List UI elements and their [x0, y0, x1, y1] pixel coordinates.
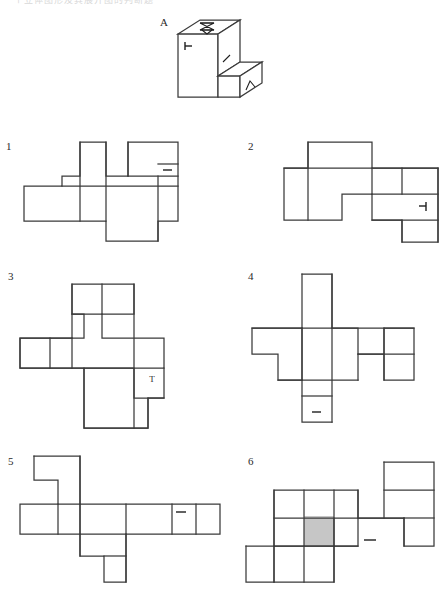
svg-text:T: T — [149, 374, 155, 384]
option-1-label: 1 — [6, 140, 12, 152]
net-option-4 — [244, 270, 434, 430]
shaded-cell-option-6 — [304, 516, 334, 546]
option-2-label: 2 — [248, 140, 254, 152]
figure-label-a: A — [160, 16, 168, 28]
option-3-label: 3 — [8, 270, 14, 282]
clipped-header: 一个立体图形及其展开图的判断题 — [0, 0, 440, 9]
option-5-label: 5 — [8, 455, 14, 467]
net-option-5 — [14, 452, 224, 587]
puzzle-page: 一个立体图形及其展开图的判断题 A — [0, 0, 440, 591]
mark-right-tack-option-2 — [419, 202, 426, 211]
solid-figure-a — [170, 14, 270, 114]
net-option-1 — [18, 136, 218, 246]
clipped-header-text: 一个立体图形及其展开图的判断题 — [4, 0, 154, 6]
net-option-2 — [280, 138, 440, 248]
net-option-6 — [244, 458, 439, 588]
net-option-3: T — [14, 276, 204, 436]
mark-T-option-3: T — [149, 374, 155, 384]
